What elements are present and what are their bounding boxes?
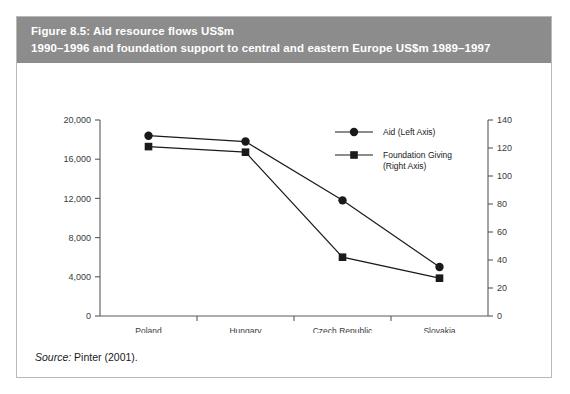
category-axis-ticks: PolandHungaryCzech RepublicSlovakia <box>135 316 456 333</box>
figure-panel: Figure 8.5: Aid resource flows US$m 1990… <box>16 16 552 378</box>
svg-text:0: 0 <box>497 311 502 321</box>
chart-legend: Aid (Left Axis)Foundation Giving(Right A… <box>335 127 452 171</box>
svg-text:Poland: Poland <box>135 326 162 333</box>
svg-text:Czech Republic: Czech Republic <box>313 326 373 333</box>
svg-text:120: 120 <box>497 143 512 153</box>
svg-text:(Right Axis): (Right Axis) <box>383 161 427 171</box>
svg-text:12,000: 12,000 <box>63 194 91 204</box>
svg-text:100: 100 <box>497 171 512 181</box>
figure-header: Figure 8.5: Aid resource flows US$m 1990… <box>17 17 551 63</box>
svg-text:Aid (Left Axis): Aid (Left Axis) <box>383 127 436 137</box>
svg-text:4,000: 4,000 <box>68 272 91 282</box>
svg-text:Slovakia: Slovakia <box>423 326 455 333</box>
svg-text:Hungary: Hungary <box>229 326 262 333</box>
svg-text:140: 140 <box>497 115 512 125</box>
figure-title-line-2: 1990–1996 and foundation support to cent… <box>31 40 537 57</box>
right-axis-ticks: 020406080100120140 <box>488 115 512 321</box>
svg-text:40: 40 <box>497 255 507 265</box>
source-text: Pinter (2001). <box>71 351 138 363</box>
svg-text:20,000: 20,000 <box>63 115 91 125</box>
svg-text:60: 60 <box>497 227 507 237</box>
source-note: Source: Pinter (2001). <box>35 351 138 363</box>
svg-text:80: 80 <box>497 199 507 209</box>
svg-text:20: 20 <box>497 283 507 293</box>
source-label: Source: <box>35 351 71 363</box>
left-axis-ticks: 04,0008,00012,00016,00020,000 <box>63 115 100 321</box>
svg-text:8,000: 8,000 <box>68 233 91 243</box>
chart-plot: 04,0008,00012,00016,00020,000 0204060801… <box>17 63 553 333</box>
figure-title-line-1: Figure 8.5: Aid resource flows US$m <box>31 23 537 40</box>
chart-area: 04,0008,00012,00016,00020,000 0204060801… <box>17 63 551 333</box>
svg-text:0: 0 <box>86 311 91 321</box>
svg-text:Foundation Giving: Foundation Giving <box>383 150 452 160</box>
svg-text:16,000: 16,000 <box>63 154 91 164</box>
